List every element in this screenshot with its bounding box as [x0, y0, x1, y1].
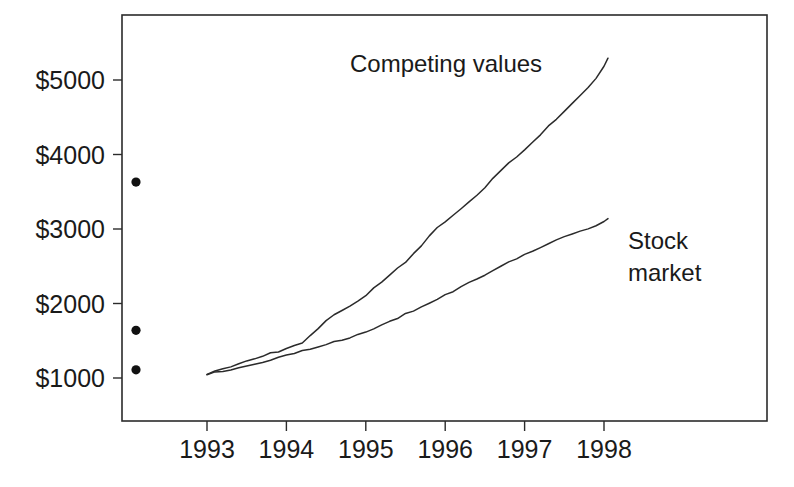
chart-container: $5000$4000$3000$2000$1000 19931994199519… [0, 0, 794, 487]
x-tick-label: 1993 [179, 435, 235, 463]
y-tick-label: $5000 [35, 66, 105, 94]
y-tick-label: $2000 [35, 290, 105, 318]
x-tick-label: 1995 [338, 435, 394, 463]
stock-market-label-line-1: Stock [628, 227, 689, 254]
dot-middle [131, 326, 140, 335]
x-tick-label: 1994 [259, 435, 315, 463]
x-axis-ticks: 199319941995199619971998 [179, 421, 632, 463]
x-tick-label: 1997 [497, 435, 553, 463]
marker-dots [131, 177, 140, 374]
x-tick-label: 1996 [417, 435, 473, 463]
y-tick-label: $4000 [35, 141, 105, 169]
y-tick-label: $1000 [35, 364, 105, 392]
y-tick-label: $3000 [35, 215, 105, 243]
y-axis-ticks: $5000$4000$3000$2000$1000 [35, 66, 122, 392]
line-chart: $5000$4000$3000$2000$1000 19931994199519… [0, 0, 794, 487]
series-line-competing-values [207, 58, 608, 374]
dot-upper [131, 177, 140, 186]
x-tick-label: 1998 [576, 435, 632, 463]
competing-values-label: Competing values [350, 50, 542, 77]
stock-market-label-line-2: market [628, 259, 702, 286]
series-line-stock-market [207, 219, 608, 375]
dot-lower [131, 365, 140, 374]
